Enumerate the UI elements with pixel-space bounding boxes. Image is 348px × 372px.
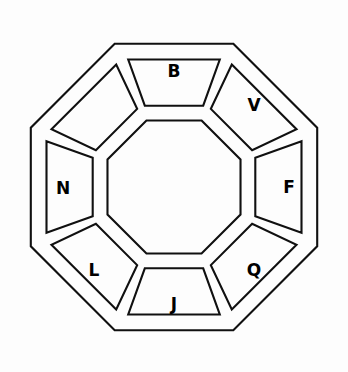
segment-bottom-left-letter: L	[89, 260, 100, 280]
segment-bottom-right-letter: Q	[247, 260, 261, 280]
segment-left-letter: N	[56, 178, 70, 198]
inner-octagon-outline	[107, 120, 240, 253]
segment-top-right-letter: V	[247, 95, 261, 115]
segment-top-left[interactable]	[51, 64, 137, 150]
segment-bottom-letter: J	[170, 294, 177, 314]
segment-right-letter: F	[283, 177, 295, 197]
octagon-puzzle-figure: BVFQJLN	[0, 0, 348, 372]
segment-top-letter: B	[168, 61, 181, 81]
inner-octagon-hole	[107, 120, 240, 253]
octagon-puzzle-svg: BVFQJLN	[0, 0, 348, 372]
